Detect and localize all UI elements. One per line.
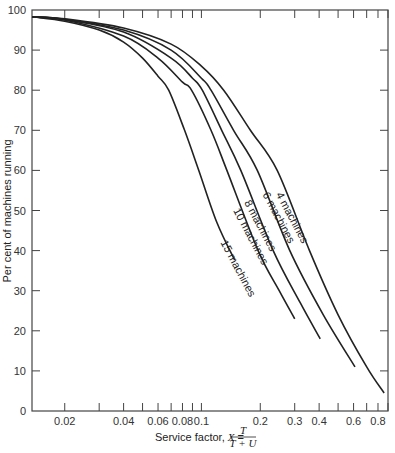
x-tick-label: 0.02 <box>54 415 75 427</box>
y-tick-label: 80 <box>14 84 26 96</box>
x-axis-fraction: T T + U <box>230 424 258 449</box>
y-tick-label: 20 <box>14 325 26 337</box>
fraction-denominator: T + U <box>230 437 258 449</box>
curve-15-machines <box>32 17 235 260</box>
x-tick-label: 0.3 <box>287 415 302 427</box>
x-tick-label: 0.6 <box>346 415 361 427</box>
x-tick-label: 0.8 <box>370 415 385 427</box>
y-tick-label: 100 <box>8 4 26 16</box>
x-tick-label: 0.06 <box>147 415 168 427</box>
y-tick-label: 60 <box>14 164 26 176</box>
y-tick-label: 40 <box>14 245 26 257</box>
y-tick-label: 70 <box>14 124 26 136</box>
y-tick-label: 90 <box>14 44 26 56</box>
x-axis-title-prefix: Service factor, <box>155 431 228 443</box>
x-tick-label: 0.1 <box>194 415 209 427</box>
fraction-numerator: T <box>240 424 247 436</box>
y-tick-label: 0 <box>20 405 26 417</box>
x-tick-label: 0.2 <box>253 415 268 427</box>
y-axis-title: Per cent of machines running <box>1 139 13 282</box>
curve-4-machines <box>32 17 384 393</box>
x-tick-label: 0.08 <box>172 415 193 427</box>
curve-8-machines <box>32 17 320 339</box>
y-tick-label: 10 <box>14 365 26 377</box>
curve-labels: 4 machines6 machines8 machines10 machine… <box>219 190 312 299</box>
y-tick-label: 30 <box>14 285 26 297</box>
x-tick-label: 0.4 <box>311 415 326 427</box>
curves <box>32 17 384 393</box>
y-tick-label: 50 <box>14 205 26 217</box>
chart: 01020304050607080901000.020.040.060.080.… <box>0 0 395 453</box>
x-tick-label: 0.04 <box>113 415 134 427</box>
plot-frame <box>32 10 388 411</box>
plot-axes: 01020304050607080901000.020.040.060.080.… <box>8 4 388 427</box>
